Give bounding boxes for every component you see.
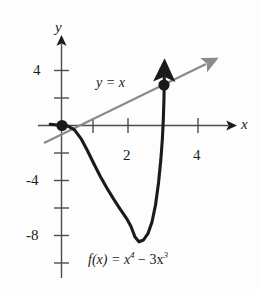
- plot-canvas: [0, 0, 262, 290]
- y-axis: [54, 44, 69, 278]
- function-label: f(x) = x4 − 3x3: [88, 251, 168, 267]
- y-tick-label-minus-4: -4: [26, 173, 39, 188]
- function-label-exponent-2: 3: [164, 250, 169, 260]
- x-tick-label-2: 2: [123, 148, 131, 163]
- upper-intersection-point: [158, 79, 169, 90]
- x-axis-label: x: [241, 117, 248, 132]
- function-curve: [50, 78, 164, 242]
- function-label-lhs: f(x) = x: [88, 252, 130, 267]
- x-tick-label-4: 4: [193, 148, 201, 163]
- graph-figure: y x 4 -4 -8 2 4 y = x f(x) = x4 − 3x3: [0, 0, 262, 290]
- origin-intersection-point: [56, 120, 67, 131]
- identity-line-label: y = x: [96, 76, 125, 90]
- y-tick-label-4: 4: [33, 63, 41, 78]
- y-axis-label: y: [55, 20, 62, 35]
- y-tick-label-minus-8: -8: [26, 228, 39, 243]
- identity-line: [44, 64, 206, 143]
- function-label-operator: − 3x: [135, 252, 164, 267]
